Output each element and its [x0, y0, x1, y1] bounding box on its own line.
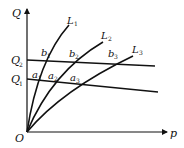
l3-label: L: [131, 44, 139, 55]
a2-sub: 2: [54, 75, 58, 82]
q1-sub: 1: [19, 80, 23, 87]
origin-label: O: [15, 132, 24, 145]
l1-sub: 1: [74, 20, 78, 27]
y-axis-label: Q: [12, 7, 21, 20]
l2-label: L: [100, 30, 108, 41]
l1-label: L: [66, 15, 74, 26]
b3-sub: 3: [114, 53, 118, 60]
a3-sub: 3: [76, 77, 80, 84]
b2-sub: 2: [75, 53, 79, 60]
x-axis-label: p: [170, 127, 177, 140]
q2-sub: 2: [19, 61, 23, 68]
l3-sub: 3: [139, 49, 143, 56]
a1-sub: 1: [38, 74, 42, 81]
diagram-canvas: Q p O Q 2 Q 1 L 1 L 2 L 3 b 1 b 2 b 3 a …: [0, 0, 184, 148]
l2-sub: 2: [108, 35, 112, 42]
b1-sub: 1: [47, 52, 51, 59]
q1-line: [27, 79, 158, 92]
